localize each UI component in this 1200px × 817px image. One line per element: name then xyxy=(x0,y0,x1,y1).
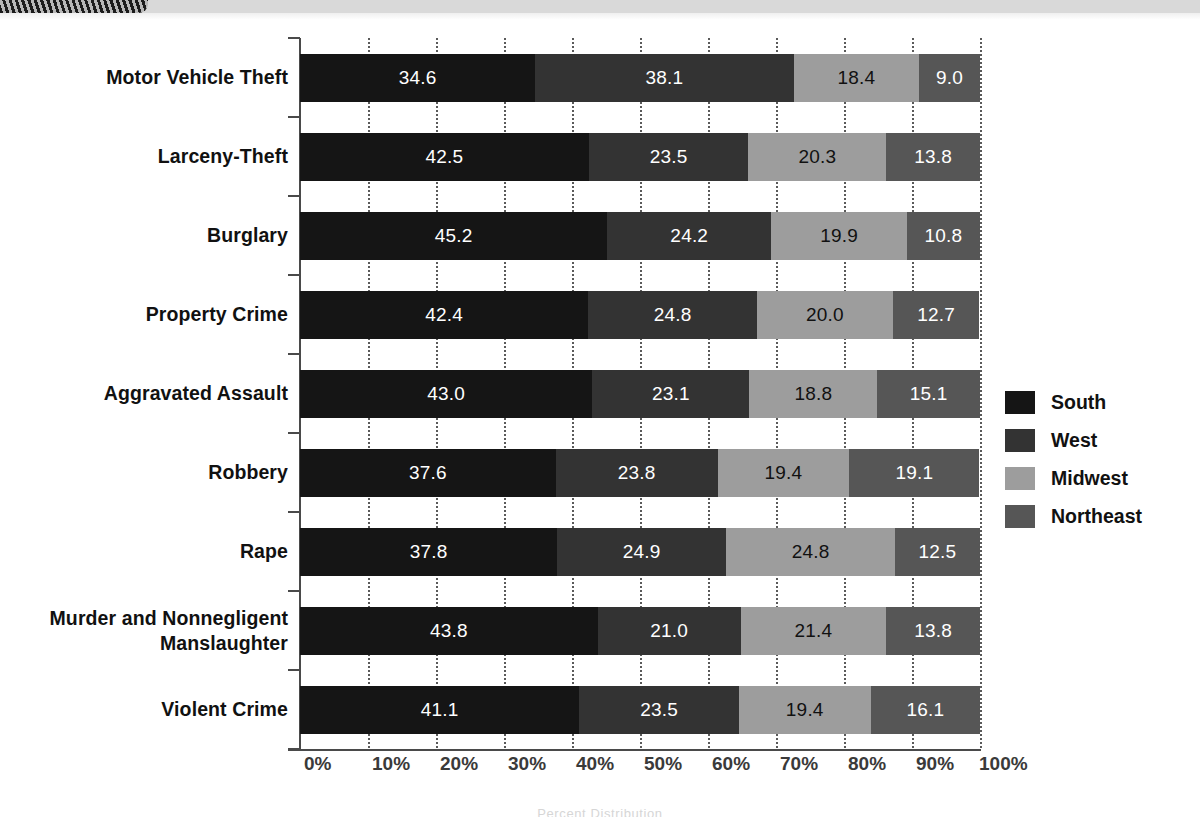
bar-segment-south[interactable]: 43.0 xyxy=(300,370,592,418)
legend-item[interactable]: Midwest xyxy=(1005,463,1195,493)
bar-segment-south[interactable]: 45.2 xyxy=(300,212,607,260)
bar-segment-value: 19.9 xyxy=(820,225,858,247)
bar-segment-value: 37.6 xyxy=(409,462,447,484)
legend-label: Midwest xyxy=(1051,467,1128,490)
bar-segment-west[interactable]: 23.8 xyxy=(556,449,718,497)
bar-segment-midwest[interactable]: 18.8 xyxy=(749,370,877,418)
legend-item[interactable]: Northeast xyxy=(1005,501,1195,531)
bar-row: 42.523.520.313.8 xyxy=(300,133,980,181)
bar-segment-value: 20.0 xyxy=(806,304,844,326)
bar-segment-northeast[interactable]: 12.7 xyxy=(893,291,979,339)
x-tick-label: 100% xyxy=(979,753,1028,775)
bar-row: 37.824.924.812.5 xyxy=(300,528,980,576)
bar-segment-value: 42.4 xyxy=(425,304,463,326)
legend-swatch-icon xyxy=(1005,429,1035,452)
bar-segment-value: 45.2 xyxy=(435,225,473,247)
bar-segment-midwest[interactable]: 18.4 xyxy=(794,54,919,102)
bar-segment-west[interactable]: 23.1 xyxy=(592,370,749,418)
category-label-line: Motor Vehicle Theft xyxy=(6,65,288,90)
bar-row: 43.821.021.413.8 xyxy=(300,607,980,655)
bar-segment-value: 21.0 xyxy=(650,620,688,642)
x-tick-label: 60% xyxy=(712,753,750,775)
footer-ghost-text: Percent Distribution xyxy=(0,806,1200,817)
page-edge-shadow xyxy=(0,13,1200,20)
bar-segment-midwest[interactable]: 19.4 xyxy=(739,686,871,734)
bar-segment-value: 23.1 xyxy=(652,383,690,405)
bar-segment-northeast[interactable]: 10.8 xyxy=(907,212,980,260)
bar-segment-value: 42.5 xyxy=(425,146,463,168)
y-axis-tick xyxy=(288,432,300,434)
bar-segment-south[interactable]: 42.5 xyxy=(300,133,589,181)
bar-segment-value: 13.8 xyxy=(914,146,952,168)
category-label: Robbery xyxy=(6,460,288,485)
bar-segment-south[interactable]: 37.8 xyxy=(300,528,557,576)
x-tick-label: 50% xyxy=(644,753,682,775)
x-tick-label: 90% xyxy=(916,753,954,775)
bar-row: 45.224.219.910.8 xyxy=(300,212,980,260)
bar-segment-midwest[interactable]: 21.4 xyxy=(741,607,887,655)
bar-segment-west[interactable]: 38.1 xyxy=(535,54,794,102)
y-axis-tick xyxy=(288,274,300,276)
y-axis-tick xyxy=(288,590,300,592)
bar-segment-west[interactable]: 23.5 xyxy=(589,133,749,181)
bar-segment-northeast[interactable]: 12.5 xyxy=(895,528,980,576)
x-tick-label: 40% xyxy=(576,753,614,775)
x-tick-label: 30% xyxy=(508,753,546,775)
x-tick-label: 70% xyxy=(780,753,818,775)
bar-segment-northeast[interactable]: 13.8 xyxy=(886,133,980,181)
bar-segment-west[interactable]: 21.0 xyxy=(598,607,741,655)
category-label-line: Aggravated Assault xyxy=(6,381,288,406)
bar-segment-value: 20.3 xyxy=(798,146,836,168)
bar-segment-south[interactable]: 43.8 xyxy=(300,607,598,655)
bar-segment-northeast[interactable]: 19.1 xyxy=(849,449,979,497)
bar-segment-midwest[interactable]: 24.8 xyxy=(726,528,895,576)
legend-item[interactable]: South xyxy=(1005,387,1195,417)
page-top-banner xyxy=(0,0,1200,13)
bar-segment-value: 16.1 xyxy=(906,699,944,721)
x-tick-label: 0% xyxy=(304,753,331,775)
bar-segment-value: 23.5 xyxy=(640,699,678,721)
category-label: Property Crime xyxy=(6,302,288,327)
bar-segment-value: 41.1 xyxy=(421,699,459,721)
bar-segment-value: 19.1 xyxy=(895,462,933,484)
x-tick-label: 80% xyxy=(848,753,886,775)
y-axis-tick xyxy=(288,37,300,39)
bar-segment-value: 34.6 xyxy=(399,67,437,89)
bar-segment-south[interactable]: 34.6 xyxy=(300,54,535,102)
legend-swatch-icon xyxy=(1005,505,1035,528)
bar-segment-midwest[interactable]: 20.0 xyxy=(757,291,893,339)
bar-segment-value: 43.8 xyxy=(430,620,468,642)
bar-segment-south[interactable]: 37.6 xyxy=(300,449,556,497)
bar-row: 41.123.519.416.1 xyxy=(300,686,980,734)
bar-segment-northeast[interactable]: 13.8 xyxy=(886,607,980,655)
legend-item[interactable]: West xyxy=(1005,425,1195,455)
bar-segment-midwest[interactable]: 20.3 xyxy=(748,133,886,181)
chart-legend: SouthWestMidwestNortheast xyxy=(1005,387,1195,539)
y-axis-tick xyxy=(288,669,300,671)
bar-segment-west[interactable]: 24.9 xyxy=(557,528,726,576)
bar-segment-northeast[interactable]: 15.1 xyxy=(877,370,980,418)
bar-segment-south[interactable]: 42.4 xyxy=(300,291,588,339)
bar-segment-west[interactable]: 23.5 xyxy=(579,686,739,734)
bar-segment-value: 19.4 xyxy=(765,462,803,484)
legend-label: South xyxy=(1051,391,1106,414)
bar-row: 37.623.819.419.1 xyxy=(300,449,980,497)
legend-swatch-icon xyxy=(1005,467,1035,490)
bar-segment-south[interactable]: 41.1 xyxy=(300,686,579,734)
bar-segment-northeast[interactable]: 9.0 xyxy=(919,54,980,102)
category-axis-labels: Motor Vehicle TheftLarceny-TheftBurglary… xyxy=(0,38,288,748)
bar-segment-value: 19.4 xyxy=(786,699,824,721)
bar-segment-value: 15.1 xyxy=(910,383,948,405)
bar-segment-value: 23.8 xyxy=(618,462,656,484)
bar-segment-west[interactable]: 24.8 xyxy=(588,291,757,339)
bar-row: 43.023.118.815.1 xyxy=(300,370,980,418)
bar-segment-midwest[interactable]: 19.4 xyxy=(718,449,850,497)
bar-segment-value: 37.8 xyxy=(410,541,448,563)
bar-segment-northeast[interactable]: 16.1 xyxy=(871,686,980,734)
legend-label: Northeast xyxy=(1051,505,1142,528)
bar-segment-west[interactable]: 24.2 xyxy=(607,212,771,260)
bar-segment-value: 23.5 xyxy=(650,146,688,168)
category-label-line: Manslaughter xyxy=(6,631,288,656)
y-axis-tick xyxy=(288,195,300,197)
bar-segment-midwest[interactable]: 19.9 xyxy=(771,212,906,260)
